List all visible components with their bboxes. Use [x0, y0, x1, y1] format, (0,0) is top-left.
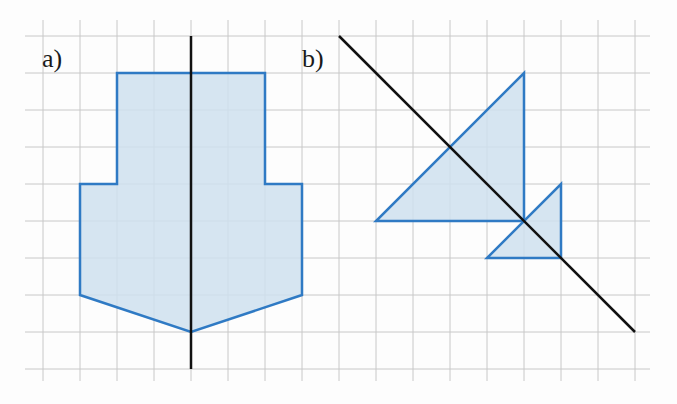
- panel-b-label: b): [302, 46, 324, 72]
- panel-a-label: a): [42, 46, 62, 72]
- figure-canvas: a) b): [0, 0, 677, 404]
- grid-figure: [0, 0, 677, 404]
